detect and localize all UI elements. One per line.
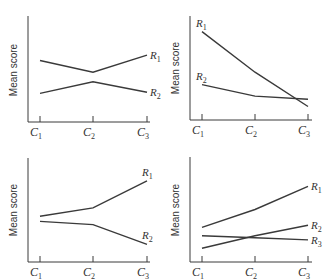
series-line-R1 — [40, 55, 147, 72]
series-label: R1 — [141, 166, 153, 181]
panel-2: Mean scoreC1C2C3R1R2 — [170, 16, 312, 139]
x-tick-label: C1 — [192, 123, 204, 139]
series-label: R3 — [310, 234, 322, 249]
x-tick-label-subscript: 3 — [145, 272, 149, 280]
x-tick-label-subscript: 2 — [253, 272, 257, 280]
series-label: R2 — [310, 219, 322, 234]
series-label-subscript: 2 — [203, 76, 207, 85]
y-axis-label: Mean score — [170, 183, 181, 236]
series-label-subscript: 1 — [203, 23, 207, 32]
series-line-R2 — [40, 221, 147, 244]
y-axis-label: Mean score — [170, 41, 181, 94]
x-tick-label: C2 — [83, 125, 95, 141]
x-tick-label-subscript: 1 — [200, 130, 204, 139]
interaction-plots-figure: Mean scoreC1C2C3R1R2Mean scoreC1C2C3R1R2… — [0, 0, 335, 280]
x-tick-label: C2 — [245, 123, 257, 139]
series-line-R2 — [40, 82, 147, 94]
series-label-subscript: 3 — [318, 240, 322, 249]
x-tick-label-subscript: 1 — [38, 272, 42, 280]
y-axis-label: Mean score — [8, 183, 19, 236]
x-tick-label: C2 — [83, 265, 95, 280]
x-tick-label-subscript: 3 — [306, 272, 310, 280]
y-axis-label: Mean score — [8, 43, 19, 96]
series-label-subscript: 2 — [157, 92, 161, 101]
series-label-subscript: 1 — [149, 172, 153, 181]
x-tick-label-subscript: 2 — [91, 272, 95, 280]
x-tick-label: C3 — [137, 265, 149, 280]
series-label: R2 — [149, 86, 161, 101]
x-tick-label-subscript: 1 — [38, 132, 42, 141]
series-label: R1 — [149, 49, 161, 64]
series-label: R1 — [195, 17, 207, 32]
x-tick-label-subscript: 3 — [306, 130, 310, 139]
panel-3: Mean scoreC1C2C3R1R2 — [8, 158, 153, 280]
x-tick-label: C2 — [245, 265, 257, 280]
x-tick-label: C3 — [298, 265, 310, 280]
series-line-R1 — [202, 186, 308, 227]
series-label-subscript: 2 — [318, 225, 322, 234]
panel-1: Mean scoreC1C2C3R1R2 — [8, 16, 161, 141]
x-tick-label: C1 — [30, 265, 42, 280]
x-tick-label-subscript: 2 — [253, 130, 257, 139]
x-tick-label-subscript: 3 — [145, 132, 149, 141]
series-label: R2 — [195, 70, 207, 85]
x-tick-label: C3 — [298, 123, 310, 139]
x-tick-label: C1 — [192, 265, 204, 280]
series-label-subscript: 2 — [149, 235, 153, 244]
series-line-R1 — [40, 181, 147, 216]
series-label-subscript: 1 — [318, 186, 322, 195]
x-tick-label: C1 — [30, 125, 42, 141]
x-tick-label-subscript: 2 — [91, 132, 95, 141]
x-tick-label-subscript: 1 — [200, 272, 204, 280]
x-tick-label: C3 — [137, 125, 149, 141]
series-line-R1 — [202, 32, 308, 107]
series-label: R1 — [310, 180, 322, 195]
series-label-subscript: 1 — [157, 55, 161, 64]
panel-4: Mean scoreC1C2C3R1R2R3 — [170, 157, 322, 280]
